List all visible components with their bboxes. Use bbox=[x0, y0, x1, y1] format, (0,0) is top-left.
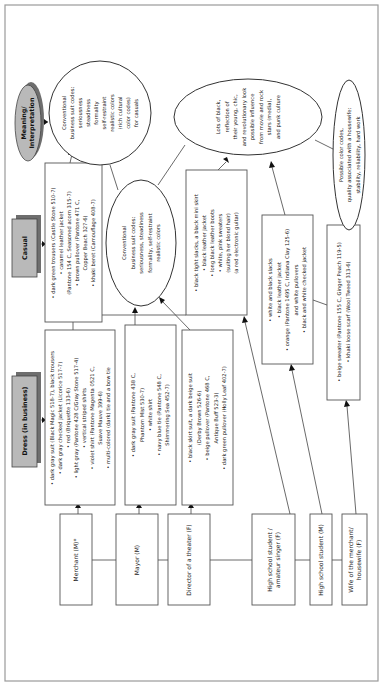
role-box: Wife of the merchant/housewife (F) bbox=[342, 514, 367, 605]
casual-merchant-item: • brown pullover (Pantone 471 C, bbox=[74, 199, 81, 286]
youth-interpretation: from movie and rock bbox=[258, 90, 264, 144]
arrow-student-oval bbox=[272, 167, 285, 215]
role-box: Director of a theater (F) bbox=[168, 514, 210, 605]
youth-interpretation: and revolutionary look bbox=[241, 88, 248, 146]
casual-singer-item: (suiting her blond hair) bbox=[225, 213, 232, 273]
role-box: High school student /amateur singer (F) bbox=[252, 514, 295, 605]
arrowhead bbox=[289, 364, 295, 371]
housewife-interpretation: quality associated with a housewife: bbox=[346, 108, 353, 203]
oval-link bbox=[315, 140, 335, 150]
housewife-interpretation: Possible color codes, bbox=[338, 128, 344, 182]
casual-student-item: • orange (Pantone 1495 C, Indiana Clay 1… bbox=[284, 229, 291, 351]
role-label: High school student / bbox=[266, 527, 274, 592]
casual-student-item: • black and white checked jacket bbox=[301, 247, 308, 333]
dress-business-interpretation: realistic colors bbox=[155, 224, 161, 262]
casual-wife-item: • beige sweater (Pantone 155 C, Ginger P… bbox=[336, 242, 343, 382]
arrow-student-role bbox=[292, 370, 322, 514]
dress-business-interpretation: formality, self-restraint bbox=[147, 213, 154, 272]
dress-box-merchant: • dark gray suit (Black Magic 518-7), bl… bbox=[45, 330, 115, 505]
casual-business-interpretation: color codes) bbox=[125, 97, 131, 129]
arrowhead bbox=[44, 119, 48, 125]
role-label: Director of a theater (F) bbox=[185, 524, 192, 595]
meaning-header-line-1: Meaning/ bbox=[20, 106, 28, 140]
youth-interpretation: their young, chic, bbox=[232, 94, 239, 140]
casual-business-interpretation: self-restraint bbox=[101, 97, 107, 130]
casual-business-interpretation: Conventional bbox=[61, 96, 67, 130]
youth-interpretation: possible influence bbox=[249, 94, 256, 141]
casual-header-label: Casual bbox=[21, 236, 29, 260]
casual-merchant-item: • khaki beret (Camouflage 408-7) bbox=[90, 199, 97, 287]
dress-business-interpretation: seriousness, steadiness bbox=[138, 212, 144, 274]
arrowhead bbox=[132, 307, 138, 313]
casual-box-singer: • black tight slacks, a black mini skirt… bbox=[186, 170, 247, 315]
casual-business-interpretation: (rich cultural bbox=[117, 96, 123, 129]
casual-business-interpretation: formality bbox=[93, 101, 100, 124]
dress-merchant-item: • light gray (Pantone 428 C/Gray Stone 5… bbox=[73, 358, 80, 479]
casual-box-wife: • beige sweater (Pantone 155 C, Ginger P… bbox=[327, 225, 360, 400]
oval-youth: Lots of black,reflection oftheir young, … bbox=[174, 79, 322, 155]
dress-business-interpretation: business suit codes: bbox=[130, 217, 136, 270]
youth-interpretation: Lots of black, bbox=[215, 99, 221, 134]
color-code-diagram: Meaning/ Interpretation Casual Dress (in… bbox=[0, 0, 386, 685]
role-box: Merchant (M)* bbox=[60, 514, 92, 605]
youth-interpretation: stars (media), bbox=[266, 99, 272, 136]
dress-merchant-item: • vertical striped shirts bbox=[81, 388, 88, 448]
dress-merchant-item: • violet shirt (Pantone Magenta 0521 C, bbox=[89, 366, 96, 469]
role-label: Wife of the merchant/ bbox=[347, 526, 354, 592]
casual-student-item: • black leather jacket bbox=[276, 262, 283, 318]
dress-merchant-item: • red (Briquette 133-6) bbox=[65, 388, 72, 448]
casual-business-interpretation: seriousness bbox=[77, 97, 83, 128]
dress-mayor-item: Shimmering Sea 452-7) bbox=[164, 384, 171, 446]
oval-link bbox=[110, 165, 118, 190]
casual-student-item: and white pullovers bbox=[293, 264, 300, 315]
role-label: High school student (M) bbox=[317, 524, 325, 596]
dress-mayor-item: • dark gray suit (Pantone 438 C, bbox=[130, 373, 137, 457]
meaning-header-line-2: Interpretation bbox=[28, 97, 36, 149]
role-label: Merchant (M)* bbox=[72, 539, 79, 582]
oval-link bbox=[158, 145, 185, 185]
oval-dress-business: Conventionalbusiness suit codes:seriousn… bbox=[106, 180, 176, 306]
role-label: housewife (F) bbox=[355, 540, 362, 581]
casual-singer-item: • black leather jacket bbox=[201, 215, 208, 271]
arrowhead bbox=[344, 400, 350, 407]
dress-business-interpretation: Conventional bbox=[121, 226, 127, 260]
role-box: High school student (M) bbox=[310, 514, 332, 605]
dress-mayor-item: • navy blue tie (Pantone 548 C, bbox=[156, 374, 163, 456]
arrowhead bbox=[242, 316, 248, 323]
header-dress: Dress (in business) bbox=[12, 372, 41, 467]
dress-merchant-item: Suave Mauve 399-6) bbox=[97, 391, 103, 445]
youth-interpretation: and punk culture bbox=[275, 95, 282, 139]
diagram-stage: Meaning/ Interpretation Casual Dress (in… bbox=[0, 0, 386, 685]
oval-housewife: Possible color codes,quality associated … bbox=[333, 80, 365, 230]
casual-box-merchant: • dark green trousers (Castle Stone 510-… bbox=[45, 163, 102, 322]
dress-header-label: Dress (in business) bbox=[21, 386, 29, 455]
dress-director-item: Antique Buff 523-3) bbox=[213, 393, 220, 444]
dress-merchant-item: • multi-colored (dark) tie and a bow tie bbox=[105, 367, 111, 469]
role-label: amateur singer (F) bbox=[274, 532, 282, 588]
oval-casual-business: Conventionalbusiness suit codes:seriousn… bbox=[49, 61, 151, 165]
casual-merchant-item: (Pantone 154 C, Seasoned acorn 315-7) bbox=[66, 191, 72, 294]
casual-business-interpretation: for casuals bbox=[133, 99, 139, 127]
casual-merchant-item: • caramel leather jacket bbox=[58, 211, 65, 274]
role-label: Mayor (M) bbox=[133, 545, 141, 575]
arrow-singer-oval bbox=[218, 162, 226, 170]
dress-box-director: • black skirt suit, a dark beige suit(De… bbox=[182, 330, 233, 505]
casual-student-item: • white and black slacks bbox=[267, 258, 273, 322]
casual-singer-item: • black tight slacks, a black mini skirt bbox=[193, 194, 200, 291]
casual-singer-item: • long black leather boots bbox=[209, 209, 216, 277]
header-meaning: Meaning/ Interpretation bbox=[15, 82, 44, 161]
dress-merchant-item: • dark gray checked jacket (Licorice 517… bbox=[57, 362, 64, 474]
casual-merchant-item: Copper Beach 327-6) bbox=[82, 215, 89, 270]
casual-wife-item: • khaki loose scarf (Wool Tweed 313-6) bbox=[345, 261, 351, 362]
dress-director-item: • dark green pullover (Holly Leaf 402-7) bbox=[221, 366, 228, 470]
dress-director-item: • beige pullover (Pantone 468 C, bbox=[204, 375, 211, 460]
dress-box-mayor: • dark gray suit (Pantone 438 C,Phantom … bbox=[125, 325, 176, 505]
arrow-wife-role bbox=[347, 406, 356, 514]
role-boxes: Merchant (M)*Mayor (M)Director of a thea… bbox=[60, 514, 367, 605]
casual-business-interpretation: steadiness bbox=[85, 99, 91, 127]
youth-interpretation: reflection of bbox=[224, 101, 230, 132]
casual-business-interpretation: realistic colors bbox=[109, 94, 115, 132]
housewife-interpretation: stability, reliability, hard work bbox=[355, 116, 362, 193]
dress-director-item: (Derby Brown 526-6) bbox=[196, 391, 203, 445]
header-casual: Casual bbox=[12, 215, 41, 277]
